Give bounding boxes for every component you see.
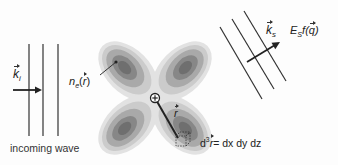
- r-var: r: [210, 138, 214, 149]
- ks-subscript: s: [272, 30, 276, 39]
- r-symbol: r: [174, 108, 178, 119]
- volume-rhs: = dx dy dz: [213, 137, 261, 149]
- scattered-wavevector-label: ks: [266, 24, 276, 39]
- diagram-canvas: [0, 0, 338, 165]
- k-subscript: i: [19, 74, 21, 83]
- q-symbol: q: [309, 25, 315, 36]
- electron-density-label: ne(r): [69, 76, 90, 90]
- f-close: ): [315, 24, 319, 36]
- k-symbol: k: [13, 68, 19, 80]
- scattered-amplitude-label: ESf(q): [290, 25, 319, 39]
- f-open: f(: [302, 24, 309, 36]
- incoming-wavevector-arrow: [13, 87, 42, 94]
- r-arg: r: [83, 76, 87, 87]
- incoming-wavevector-label: ki: [13, 68, 21, 83]
- incoming-wave-caption: incoming wave: [10, 143, 79, 154]
- scattered-wavefronts: [220, 11, 286, 99]
- nucleus-icon: [151, 94, 160, 103]
- volume-element-label: d3r= dx dy dz: [200, 137, 261, 148]
- position-vector-label: r: [174, 108, 178, 119]
- electron-scattering-diagram: ki ne(r) incoming wave r d3r= dx dy dz k…: [0, 0, 338, 165]
- ks-symbol: k: [266, 24, 272, 36]
